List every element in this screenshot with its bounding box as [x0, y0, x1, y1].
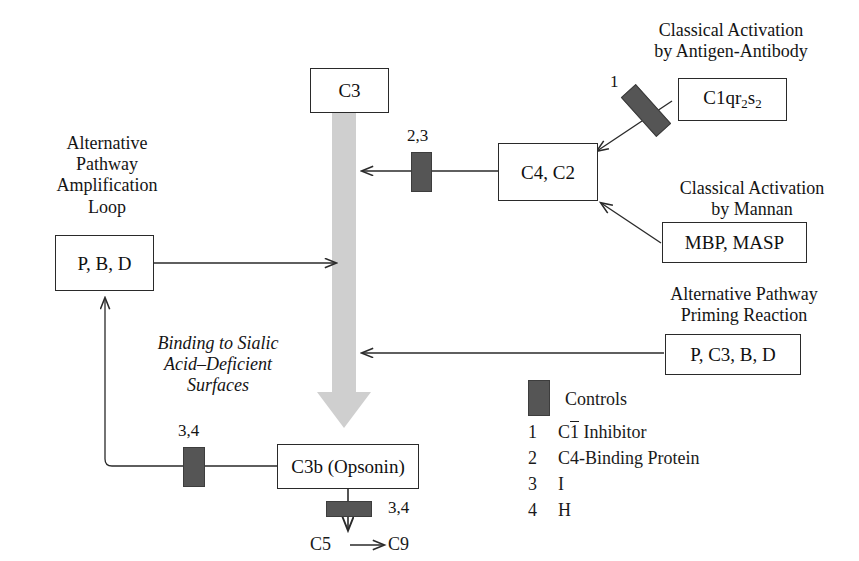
caption-alt-priming: Alternative Pathway Priming Reaction [632, 284, 856, 326]
node-mbp-masp[interactable]: MBP, MASP [662, 222, 807, 263]
node-c4-c2-label: C4, C2 [521, 163, 575, 182]
legend-row-2-index: 2 [528, 448, 544, 469]
node-c1qr2s2[interactable]: C1qr2s2 [678, 78, 787, 121]
control-label-2-3: 2,3 [407, 126, 428, 146]
control-bar-1[interactable] [621, 84, 671, 137]
legend-row-3-index: 3 [528, 474, 544, 495]
terminal-c5-label: C5 [310, 534, 331, 555]
node-p-c3-b-d[interactable]: P, C3, B, D [665, 334, 801, 375]
terminal-c9-label: C9 [388, 534, 409, 555]
control-label-1: 1 [610, 72, 619, 92]
node-p-b-d[interactable]: P, B, D [55, 235, 154, 291]
node-c3b-opsonin-label: C3b (Opsonin) [291, 457, 404, 476]
diagram-canvas: C3 C1qr2s2 C4, C2 MBP, MASP P, B, D P, C… [0, 0, 859, 561]
legend-row-4-index: 4 [528, 500, 544, 521]
legend-row-1-name: C1 Inhibitor [558, 422, 647, 443]
node-p-c3-b-d-label: P, C3, B, D [690, 345, 776, 364]
node-c3-label: C3 [338, 81, 360, 100]
caption-sialic-binding: Binding to Sialic Acid–Deficient Surface… [128, 333, 308, 397]
legend-row-2-name: C4-Binding Protein [558, 448, 700, 469]
legend-row-3-name: I [558, 474, 564, 495]
control-bar-2-3[interactable] [411, 152, 432, 192]
control-label-3-4-loop: 3,4 [178, 421, 199, 441]
node-c3[interactable]: C3 [310, 68, 389, 113]
control-bar-3-4-terminal[interactable] [326, 501, 372, 517]
caption-classical-mannan: Classical Activation by Mannan [645, 178, 859, 220]
caption-classical-antigen: Classical Activation by Antigen-Antibody [603, 20, 859, 62]
legend-control-swatch [528, 380, 550, 416]
control-bar-3-4-loop[interactable] [183, 447, 205, 487]
node-mbp-masp-label: MBP, MASP [685, 233, 784, 252]
legend-row-4-name: H [558, 500, 571, 521]
node-c4-c2[interactable]: C4, C2 [498, 143, 598, 201]
caption-alt-amplification: Alternative Pathway Amplification Loop [20, 133, 194, 218]
node-c1qr2s2-label: C1qr2s2 [703, 88, 761, 111]
legend-row-1-index: 1 [528, 422, 544, 443]
node-p-b-d-label: P, B, D [78, 254, 132, 273]
cascade-gray-arrow [317, 112, 371, 428]
legend-title: Controls [565, 389, 627, 410]
control-label-3-4-terminal: 3,4 [388, 498, 409, 518]
node-c3b-opsonin[interactable]: C3b (Opsonin) [277, 444, 419, 489]
